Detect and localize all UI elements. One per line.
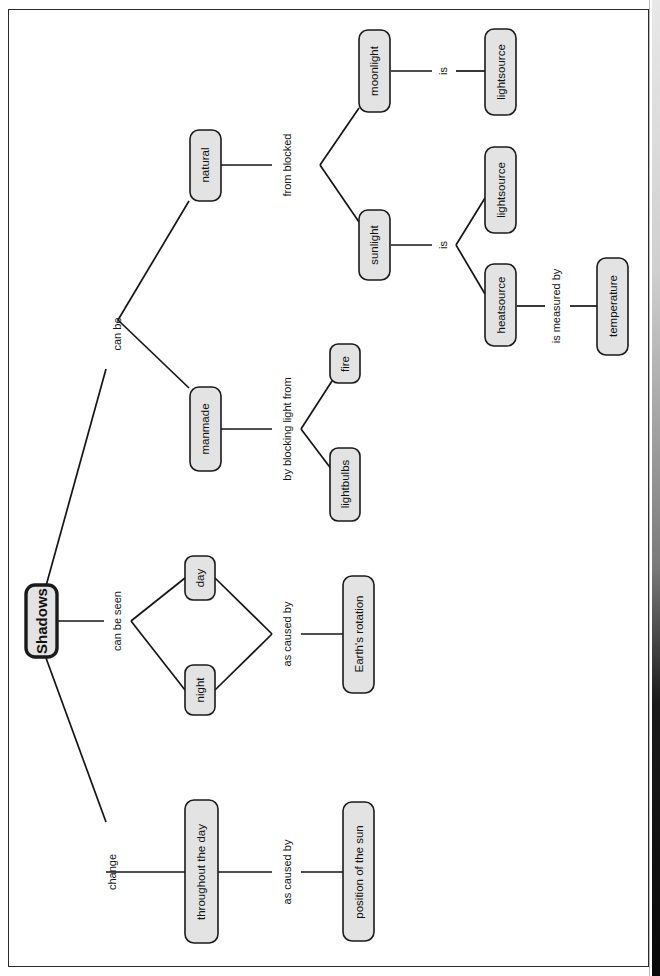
edge-is-heatsource: [456, 245, 485, 294]
edge-byblockinglight-fire: [301, 381, 332, 429]
node-lightbulbs[interactable]: lightbulbs: [330, 448, 360, 521]
node-night[interactable]: night: [185, 665, 215, 715]
node-label: position of the sun: [353, 825, 365, 918]
node-fire[interactable]: fire: [330, 344, 360, 383]
node-day[interactable]: day: [185, 556, 215, 600]
edge-label-is-moonlight: is: [437, 67, 449, 75]
node-label: day: [194, 568, 206, 587]
edge-night-ascausedby: [215, 634, 272, 690]
edge-label-can-be: can be: [111, 317, 123, 350]
node-label: lightsource: [495, 44, 507, 100]
edge-shadows-canbe: [46, 369, 106, 586]
edge-fromblocked-moonlight: [320, 108, 359, 165]
node-sunlight[interactable]: sunlight: [359, 210, 390, 280]
node-moonlight[interactable]: moonlight: [359, 30, 390, 112]
node-shadows[interactable]: Shadows: [26, 585, 57, 657]
node-label: natural: [199, 147, 211, 182]
edge-label-change: change: [106, 854, 118, 890]
edge-canbe-natural: [118, 201, 189, 320]
node-label: moonlight: [368, 45, 380, 96]
edge-label-is-measured-by: is measured by: [550, 268, 562, 343]
node-label: lightsource: [495, 162, 507, 218]
nodes-layer: Shadows day night Earth's rotation throu…: [26, 29, 628, 943]
edge-canbe-manmade: [118, 320, 189, 388]
node-label: manmade: [199, 403, 211, 454]
node-throughout-the-day[interactable]: throughout the day: [185, 800, 218, 943]
concept-map-canvas: Shadows day night Earth's rotation throu…: [0, 0, 660, 976]
edge-label-as-caused-by-sun: as caused by: [281, 839, 293, 904]
node-label: heatsource: [495, 277, 507, 334]
concept-map-page: Shadows day night Earth's rotation throu…: [0, 0, 660, 976]
edge-fromblocked-sunlight: [320, 165, 359, 222]
node-lightsource-sunlight[interactable]: lightsource: [485, 147, 516, 233]
node-temperature[interactable]: temperature: [597, 258, 628, 355]
node-earths-rotation[interactable]: Earth's rotation: [343, 576, 374, 693]
edge-label-from-blocked: from blocked: [281, 134, 293, 197]
edge-label-as-caused-by-rotation: as caused by: [281, 601, 293, 666]
edge-label-by-blocking-light-from: by blocking light from: [281, 377, 293, 480]
edge-label-can-be-seen: can be seen: [111, 591, 123, 651]
node-heatsource[interactable]: heatsource: [485, 264, 516, 346]
edge-byblockinglight-lightbulbs: [301, 429, 332, 470]
edge-day-ascausedby: [215, 578, 272, 634]
node-natural[interactable]: natural: [190, 130, 221, 201]
edge-label-is-sunlight: is: [437, 241, 449, 249]
edge-canbeseen-night: [131, 621, 185, 690]
node-label: Earth's rotation: [353, 596, 365, 673]
node-label: lightbulbs: [339, 459, 351, 508]
edge-shadows-change: [46, 658, 106, 822]
node-position-of-the-sun[interactable]: position of the sun: [343, 802, 374, 941]
node-label: temperature: [607, 275, 619, 337]
node-manmade[interactable]: manmade: [190, 387, 221, 471]
node-label: fire: [339, 356, 351, 372]
edge-is-lightsource-sun: [456, 198, 485, 245]
edge-canbeseen-day: [131, 578, 185, 621]
node-lightsource-moonlight[interactable]: lightsource: [485, 29, 516, 115]
node-label: Shadows: [33, 588, 50, 654]
node-label: sunlight: [368, 224, 380, 264]
node-label: throughout the day: [195, 824, 207, 920]
node-label: night: [194, 677, 206, 703]
